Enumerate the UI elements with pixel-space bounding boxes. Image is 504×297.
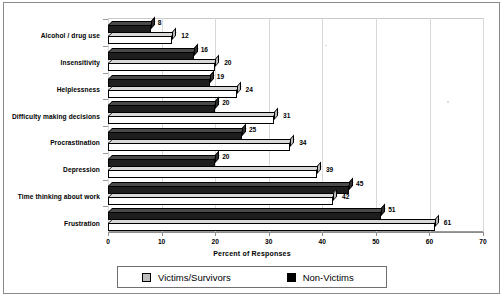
legend-item-victims-survivors[interactable]: Victims/Survivors — [142, 272, 231, 283]
y-axis-tick — [103, 206, 108, 207]
x-axis-tick-label-10: 10 — [147, 238, 177, 246]
bar-victims-1[interactable] — [108, 63, 215, 71]
legend-item-non-victims[interactable]: Non-Victims — [287, 272, 354, 283]
y-axis-tick — [103, 153, 108, 154]
x-axis-tick-40 — [322, 232, 323, 236]
y-axis-label-4: Procrastination — [0, 139, 100, 147]
x-axis-tick-60 — [429, 232, 430, 236]
bar-victims-2[interactable] — [108, 90, 237, 98]
bar-front-face — [108, 116, 274, 124]
y-axis-tick — [103, 99, 108, 100]
chart-legend: Victims/Survivors Non-Victims — [117, 266, 387, 288]
bar-victims-7[interactable] — [108, 223, 435, 231]
value-label-victims-5: 39 — [326, 166, 333, 174]
gridline-70 — [483, 18, 484, 232]
x-axis-tick-30 — [269, 232, 270, 236]
bar-victims-4[interactable] — [108, 143, 290, 151]
y-axis-label-7: Frustration — [0, 220, 100, 228]
bar-front-face — [108, 223, 435, 231]
y-axis-label-0: Alcohol / drug use — [0, 32, 100, 40]
scan-speck-1 — [447, 101, 449, 103]
value-label-nonvictims-6: 45 — [356, 180, 363, 188]
x-axis-tick-label-30: 30 — [254, 238, 284, 246]
value-label-victims-6: 42 — [342, 193, 349, 201]
value-label-nonvictims-5: 20 — [222, 153, 229, 161]
y-axis-label-5: Depression — [0, 166, 100, 174]
value-label-victims-7: 61 — [444, 219, 451, 227]
x-axis-tick-label-20: 20 — [200, 238, 230, 246]
gridline-60 — [430, 18, 431, 232]
bar-victims-3[interactable] — [108, 116, 274, 124]
value-label-victims-1: 20 — [224, 59, 231, 67]
y-axis-tick — [103, 73, 108, 74]
x-axis-tick-70 — [483, 232, 484, 236]
legend-swatch-icon-nonvictims — [287, 273, 296, 282]
plot-floor-line — [108, 232, 484, 233]
value-label-victims-3: 31 — [283, 112, 290, 120]
bar-front-face — [108, 170, 317, 178]
bar-front-face — [108, 36, 172, 44]
x-axis-tick-20 — [215, 232, 216, 236]
x-axis-tick-label-0: 0 — [93, 238, 123, 246]
y-axis-tick — [103, 126, 108, 127]
x-axis-tick-label-60: 60 — [414, 238, 444, 246]
value-label-nonvictims-0: 8 — [158, 19, 162, 27]
y-axis-tick — [103, 180, 108, 181]
gridline-50 — [376, 18, 377, 232]
legend-swatch-icon-victims — [142, 273, 151, 282]
y-axis-label-2: Helplessness — [0, 86, 100, 94]
bar-victims-6[interactable] — [108, 197, 333, 205]
legend-label-victims: Victims/Survivors — [158, 272, 231, 283]
value-label-nonvictims-7: 51 — [388, 206, 395, 214]
value-label-nonvictims-2: 19 — [217, 73, 224, 81]
bar-victims-5[interactable] — [108, 170, 317, 178]
value-label-victims-0: 12 — [181, 32, 188, 40]
chart-screenshot: Alcohol / drug useInsensitivityHelplessn… — [0, 0, 504, 297]
x-axis-tick-10 — [162, 232, 163, 236]
y-axis-label-1: Insensitivity — [0, 59, 100, 67]
bar-front-face — [108, 143, 290, 151]
scan-speck-2 — [325, 45, 327, 46]
x-axis-tick-label-40: 40 — [307, 238, 337, 246]
x-axis-tick-label-50: 50 — [361, 238, 391, 246]
x-axis-title: Percent of Responses — [0, 250, 504, 257]
y-axis-label-3: Difficulty making decisions — [0, 113, 100, 121]
x-axis-tick-50 — [376, 232, 377, 236]
bar-front-face — [108, 90, 237, 98]
bar-front-face — [108, 63, 215, 71]
bar-front-face — [108, 197, 333, 205]
legend-label-nonvictims: Non-Victims — [303, 272, 354, 283]
y-axis-label-6: Time thinking about work — [0, 193, 100, 201]
value-label-victims-2: 24 — [246, 86, 253, 94]
x-axis-tick-label-70: 70 — [468, 238, 498, 246]
x-axis-tick-0 — [108, 232, 109, 236]
value-label-victims-4: 34 — [299, 139, 306, 147]
value-label-nonvictims-3: 20 — [222, 99, 229, 107]
value-label-nonvictims-1: 16 — [201, 46, 208, 54]
y-axis-tick — [103, 19, 108, 20]
value-label-nonvictims-4: 25 — [249, 126, 256, 134]
y-axis-tick — [103, 46, 108, 47]
bar-victims-0[interactable] — [108, 36, 172, 44]
